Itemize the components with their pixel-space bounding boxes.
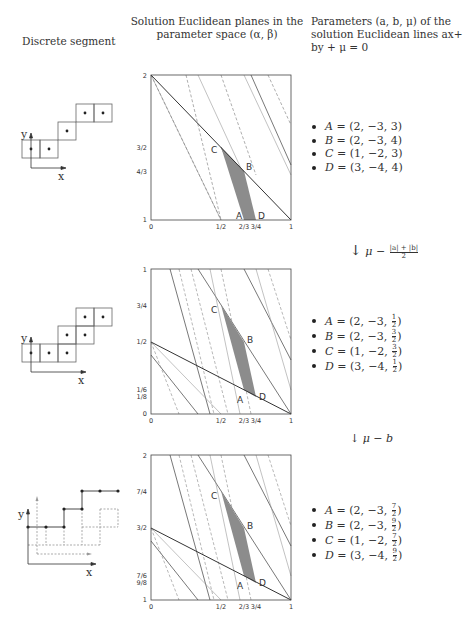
x-tick: 1: [289, 417, 293, 425]
x-tick: 1/2: [216, 603, 226, 611]
header-parameters-line2: solution Euclidean lines ax+: [311, 28, 467, 41]
x-tick: 2/3: [239, 603, 249, 611]
header-parameters: Parameters (a, b, μ) of the solution Euc…: [311, 15, 467, 54]
y-axis-label: y: [20, 128, 28, 141]
solution-region: [221, 147, 256, 220]
point-label-b: B: [246, 162, 252, 172]
transform-arrow-1: ↓ μ − |a| + |b|2: [350, 242, 419, 260]
header-solution-planes-line2: parameter space (α, β): [130, 28, 304, 41]
param-item-b: B = (2, −3, 4): [310, 134, 403, 148]
parameter-list-1: A = (2, −3, 3) B = (2, −3, 4) C = (1, −2…: [310, 120, 403, 174]
y-tick: 3/2: [137, 144, 147, 152]
y-tick: 3/2: [137, 524, 147, 532]
y-axis-label: y: [20, 332, 28, 345]
y-tick: 4/3: [137, 168, 147, 176]
parameter-list-2: A = (2, −3, 12) B = (2, −3, 32) C = (1, …: [310, 314, 402, 374]
point-label-c: C: [211, 145, 217, 155]
x-tick: 1/2: [216, 223, 226, 231]
y-tick: 1: [143, 596, 147, 604]
header-solution-planes-line1: Solution Euclidean planes in the: [130, 15, 304, 28]
x-tick: 0: [149, 417, 153, 425]
y-tick: 2: [143, 72, 147, 80]
param-item-a: A = (2, −3, 72): [310, 503, 402, 518]
x-axis-label: x: [86, 566, 93, 579]
y-axis-label: y: [17, 508, 25, 521]
y-tick: 1/8: [137, 393, 147, 401]
param-item-c: C = (1, −2, 3): [310, 147, 403, 161]
discrete-segment-3: y x: [18, 480, 128, 580]
y-tick: 7/4: [137, 488, 147, 496]
x-tick: 3/4: [251, 603, 261, 611]
param-item-b: B = (2, −3, 32): [310, 329, 402, 344]
x-tick: 0: [149, 603, 153, 611]
point-label-a: A: [237, 581, 244, 591]
header-discrete-segment: Discrete segment: [22, 35, 122, 48]
y-tick: 1: [143, 266, 147, 274]
param-item-a: A = (2, −3, 3): [310, 120, 403, 134]
y-tick: 1/2: [137, 338, 147, 346]
parameter-space-plot-2: 1 3/4 1/2 1/6 1/8 0 0 1/2 2/3 3/4 1 A B …: [130, 260, 305, 425]
discrete-segment-2: y x: [18, 300, 118, 390]
x-tick: 2/3: [239, 417, 249, 425]
x-tick: 1/2: [216, 417, 226, 425]
point-label-c: C: [211, 491, 217, 501]
y-tick: 0: [143, 410, 147, 418]
y-tick: 9/8: [137, 579, 147, 587]
x-tick: 2/3: [239, 223, 249, 231]
point-label-c: C: [211, 305, 217, 315]
param-item-b: B = (2, −3, 92): [310, 518, 402, 533]
point-label-b: B: [247, 335, 253, 345]
header-solution-planes: Solution Euclidean planes in the paramet…: [130, 15, 304, 41]
discrete-segment-1: y x: [18, 110, 118, 200]
param-item-d: D = (3, −4, 12): [310, 359, 402, 374]
parameter-space-plot-3: 2 7/4 3/2 7/6 9/8 1 0 1/2 2/3 3/4 1 A B …: [130, 445, 305, 610]
x-tick: 1: [289, 223, 293, 231]
transform-arrow-2: ↓ μ − b: [350, 432, 393, 445]
y-tick: 3/4: [137, 302, 147, 310]
x-axis-label: x: [58, 170, 65, 183]
param-item-d: D = (3, −4, 92): [310, 548, 402, 563]
point-label-a: A: [236, 211, 243, 221]
y-tick: 1: [143, 216, 147, 224]
point-label-b: B: [247, 521, 253, 531]
point-label-d: D: [259, 578, 266, 588]
header-parameters-line3: by + μ = 0: [311, 41, 467, 54]
point-label-a: A: [237, 395, 244, 405]
point-label-d: D: [259, 392, 266, 402]
parameter-space-plot-1: 2 3/2 4/3 1 0 1/2 2/3 3/4 1 A B C D: [130, 65, 305, 230]
y-tick: 2: [143, 452, 147, 460]
header-parameters-line1: Parameters (a, b, μ) of the: [311, 15, 467, 28]
x-axis-label: x: [78, 374, 85, 387]
param-item-d: D = (3, −4, 4): [310, 161, 403, 175]
x-tick: 1: [289, 603, 293, 611]
param-item-c: C = (1, −2, 72): [310, 533, 402, 548]
param-item-c: C = (1, −2, 32): [310, 344, 402, 359]
param-item-a: A = (2, −3, 12): [310, 314, 402, 329]
x-tick: 3/4: [251, 417, 261, 425]
point-label-d: D: [258, 211, 265, 221]
x-tick: 3/4: [251, 223, 261, 231]
x-tick: 0: [149, 223, 153, 231]
parameter-list-3: A = (2, −3, 72) B = (2, −3, 92) C = (1, …: [310, 503, 402, 563]
